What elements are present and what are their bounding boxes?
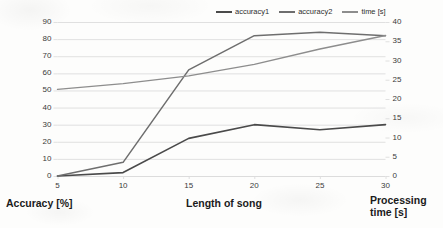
legend-label: accuracy1 — [235, 7, 269, 16]
axis-tick-label: 25 — [393, 76, 423, 84]
axis-tick-label: 15 — [393, 114, 423, 122]
axis-tick-label: 10 — [108, 182, 138, 190]
legend-item[interactable]: accuracy1 — [216, 7, 269, 16]
axis-tick-label: 0 — [393, 172, 423, 180]
axis-tick-label: 70 — [22, 52, 52, 60]
axis-tick-label: 5 — [43, 182, 73, 190]
legend-swatch-icon — [216, 11, 232, 13]
legend-item[interactable]: time [s] — [342, 7, 385, 16]
axis-tick-label: 30 — [22, 121, 52, 129]
axis-tick-label: 60 — [22, 69, 52, 77]
legend-swatch-icon — [279, 11, 295, 13]
legend-label: time [s] — [361, 7, 385, 16]
series-line-accuracy1 — [58, 125, 386, 176]
axis-tick-label: 20 — [239, 182, 269, 190]
axis-tick-label: 10 — [22, 155, 52, 163]
y-axis-right-title: Processing time [s] — [370, 195, 427, 218]
axis-tick-label: 0 — [22, 172, 52, 180]
axis-tick-label: 20 — [22, 138, 52, 146]
axis-tick-label: 20 — [393, 95, 423, 103]
legend-item[interactable]: accuracy2 — [279, 7, 332, 16]
axis-tick-label: 90 — [22, 18, 52, 26]
axis-tick-label: 40 — [393, 18, 423, 26]
axis-tick-label: 30 — [371, 182, 401, 190]
y-axis-left-title: Accuracy [%] — [6, 198, 73, 210]
axis-tick-label: 80 — [22, 35, 52, 43]
axis-tick-label: 5 — [393, 153, 423, 161]
x-axis-title: Length of song — [186, 198, 262, 210]
series-line-accuracy2 — [58, 32, 386, 176]
axis-tick-label: 30 — [393, 57, 423, 65]
axis-tick-label: 40 — [22, 104, 52, 112]
axis-tick-label: 50 — [22, 86, 52, 94]
legend-label: accuracy2 — [298, 7, 332, 16]
axis-tick-label: 15 — [174, 182, 204, 190]
series-line-time-s- — [58, 35, 386, 89]
chart-legend: accuracy1accuracy2time [s] — [216, 7, 386, 16]
line-chart: 0102030405060708090 0510152025303540 510… — [0, 0, 443, 228]
axis-tick-label: 25 — [305, 182, 335, 190]
legend-swatch-icon — [342, 11, 358, 13]
axis-tick-label: 35 — [393, 37, 423, 45]
axis-tick-label: 10 — [393, 134, 423, 142]
